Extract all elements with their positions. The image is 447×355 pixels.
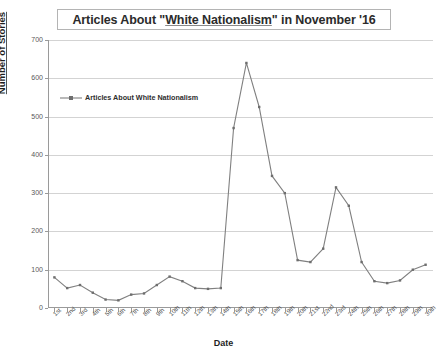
data-point-marker <box>386 282 388 284</box>
data-point-marker <box>207 288 209 290</box>
y-axis-tick-mark <box>45 270 48 271</box>
chart-title-suffix: " in November '16 <box>272 13 376 27</box>
y-axis-tick-label: 700 <box>13 36 43 43</box>
chart-container: Articles About "White Nationalism" in No… <box>0 0 447 355</box>
data-point-marker <box>309 261 311 263</box>
data-point-marker <box>322 247 324 249</box>
y-axis-tick-mark <box>45 231 48 232</box>
y-axis-tick-mark <box>45 78 48 79</box>
data-point-marker <box>258 106 260 108</box>
y-axis-tick-label: 400 <box>13 151 43 158</box>
x-axis-tick-label: 8th <box>142 307 152 317</box>
y-axis-tick-label: 600 <box>13 74 43 81</box>
series-line-chart <box>48 40 432 308</box>
x-axis-tick-label: 6th <box>116 307 126 317</box>
y-axis-tick-mark <box>45 193 48 194</box>
data-point-marker <box>220 287 222 289</box>
data-point-marker <box>360 261 362 263</box>
y-axis-tick-label: 500 <box>13 113 43 120</box>
data-point-marker <box>168 275 170 277</box>
x-axis-tick-label: 7th <box>129 307 139 317</box>
x-axis-tick-label: 4th <box>91 307 101 317</box>
x-axis-tick-label: 5th <box>104 307 114 317</box>
data-point-marker <box>296 259 298 261</box>
x-axis-tick-label: 3rd <box>78 307 89 318</box>
data-point-marker <box>373 280 375 282</box>
y-axis-title: Number of Stories <box>0 0 7 118</box>
data-point-marker <box>232 127 234 129</box>
y-axis-tick-label: 0 <box>13 304 43 311</box>
data-point-marker <box>156 284 158 286</box>
x-axis-tick-label: 9th <box>155 307 165 317</box>
data-point-marker <box>53 276 55 278</box>
data-point-marker <box>271 175 273 177</box>
data-point-marker <box>348 205 350 207</box>
data-point-marker <box>79 284 81 286</box>
data-point-marker <box>117 299 119 301</box>
chart-title-prefix: Articles About " <box>72 13 165 27</box>
data-point-marker <box>130 293 132 295</box>
legend-label: Articles About White Nationalism <box>85 93 198 102</box>
data-point-marker <box>181 280 183 282</box>
data-point-marker <box>66 287 68 289</box>
line-marker-icon <box>60 94 82 102</box>
chart-legend: Articles About White Nationalism <box>60 93 198 102</box>
y-axis-tick-label: 300 <box>13 189 43 196</box>
chart-title-flagged-text: White Nationalism <box>165 13 272 27</box>
y-axis-tick-mark <box>45 40 48 41</box>
data-point-marker <box>335 186 337 188</box>
y-axis-tick-label: 100 <box>13 266 43 273</box>
y-axis-tick-label: 200 <box>13 227 43 234</box>
data-point-marker <box>284 192 286 194</box>
data-point-marker <box>399 279 401 281</box>
x-axis-title: Date <box>0 338 447 348</box>
y-axis-tick-mark <box>45 308 48 309</box>
data-point-marker <box>424 264 426 266</box>
x-axis-tick-label: 1st <box>52 307 62 317</box>
y-axis-tick-mark <box>45 117 48 118</box>
y-axis-tick-mark <box>45 155 48 156</box>
data-point-marker <box>194 287 196 289</box>
data-point-marker <box>245 62 247 64</box>
chart-title: Articles About "White Nationalism" in No… <box>57 9 391 30</box>
data-point-marker <box>412 269 414 271</box>
data-point-marker <box>104 298 106 300</box>
data-point-marker <box>143 292 145 294</box>
data-point-marker <box>92 291 94 293</box>
